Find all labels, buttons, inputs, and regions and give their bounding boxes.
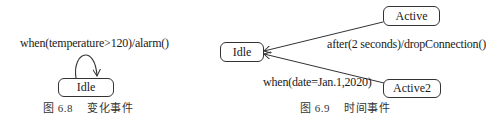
caption-title: 时间事件 <box>344 102 390 114</box>
state-label: Active2 <box>393 81 431 96</box>
state-label: Idle <box>233 45 252 60</box>
state-idle-left: Idle <box>58 78 114 97</box>
state-idle-right: Idle <box>220 42 264 62</box>
state-label: Idle <box>77 80 96 95</box>
figure-caption-6-9: 图 6.9时间事件 <box>300 102 390 115</box>
caption-title: 变化事件 <box>87 102 133 114</box>
transition-label-when-date: when(date=Jan.1,2020) <box>263 75 372 89</box>
state-active: Active <box>383 6 440 26</box>
figure-caption-6-8: 图 6.8变化事件 <box>43 102 133 115</box>
state-label: Active <box>396 9 428 24</box>
caption-number: 图 6.9 <box>300 102 330 114</box>
caption-number: 图 6.8 <box>43 102 73 114</box>
self-transition-label: when(temperature>120)/alarm() <box>20 36 169 50</box>
state-active2: Active2 <box>383 79 441 98</box>
transition-label-after: after(2 seconds)/dropConnection() <box>327 37 486 51</box>
self-loop-transition <box>76 55 97 78</box>
